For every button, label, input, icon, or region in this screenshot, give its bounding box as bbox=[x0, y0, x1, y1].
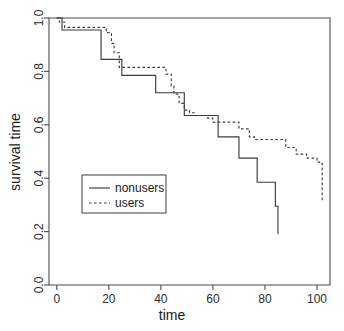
legend-label-users: users bbox=[115, 196, 144, 210]
x-tick-label: 100 bbox=[307, 292, 327, 306]
y-axis-ticks bbox=[44, 18, 49, 285]
x-axis-label: time bbox=[159, 307, 186, 323]
x-tick-label: 20 bbox=[102, 292, 116, 306]
y-tick-label: 0.6 bbox=[32, 116, 46, 133]
y-tick-label: 0.8 bbox=[32, 63, 46, 80]
y-axis-label: survival time bbox=[7, 113, 23, 191]
axis-frame bbox=[49, 18, 330, 285]
plot-canvas: 020406080100 0.00.20.40.60.81.0 time sur… bbox=[0, 0, 344, 331]
y-tick-label: 0.0 bbox=[32, 276, 46, 293]
x-tick-label: 80 bbox=[258, 292, 272, 306]
x-axis-ticks bbox=[57, 285, 317, 290]
y-tick-label: 1.0 bbox=[32, 9, 46, 26]
plot-frame bbox=[49, 18, 330, 285]
legend-label-nonusers: nonusers bbox=[115, 181, 164, 195]
y-tick-label: 0.4 bbox=[32, 170, 46, 187]
y-tick-label: 0.2 bbox=[32, 223, 46, 240]
survival-plot-figure: 020406080100 0.00.20.40.60.81.0 time sur… bbox=[0, 0, 344, 331]
x-tick-label: 0 bbox=[53, 292, 60, 306]
x-axis-tick-labels: 020406080100 bbox=[53, 292, 327, 306]
y-axis-tick-labels: 0.00.20.40.60.81.0 bbox=[32, 9, 46, 293]
x-tick-label: 60 bbox=[206, 292, 220, 306]
x-tick-label: 40 bbox=[154, 292, 168, 306]
chart-legend: nonusers users bbox=[82, 175, 166, 213]
